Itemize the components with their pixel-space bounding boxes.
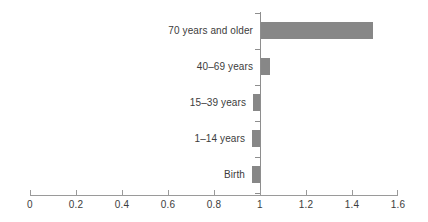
bar-chart: 70 years and older 40–69 years 15–39 yea… (0, 0, 428, 222)
x-axis-tick-label-0-4: 0.4 (115, 199, 130, 210)
x-axis-tick-label-0: 0 (27, 199, 33, 210)
x-axis-tick-label-0-8: 0.8 (207, 199, 222, 210)
y-axis-line (260, 12, 261, 195)
x-axis-line (30, 195, 398, 196)
x-axis-tick (260, 190, 261, 195)
x-axis-tick-label-1: 1 (257, 199, 263, 210)
category-label-70-years-and-older: 70 years and older (160, 25, 253, 36)
x-axis-tick (306, 190, 307, 195)
y-axis-tick (255, 85, 260, 86)
x-axis-tick (168, 190, 169, 195)
bar-70-years-and-older (260, 22, 373, 39)
category-label-birth: Birth (152, 169, 245, 180)
bar-1-14-years (252, 130, 260, 147)
y-axis-tick (255, 13, 260, 14)
category-label-40-69-years: 40–69 years (160, 61, 253, 72)
x-axis-left-cap (30, 190, 31, 195)
x-axis-right-cap (397, 190, 398, 195)
y-axis-tick (255, 157, 260, 158)
bar-15-39-years (253, 94, 260, 111)
x-axis-tick (122, 190, 123, 195)
y-axis-tick (255, 49, 260, 50)
x-axis-tick-label-1-6: 1.6 (391, 199, 406, 210)
x-axis-tick-label-1-2: 1.2 (299, 199, 314, 210)
x-axis-tick (76, 190, 77, 195)
x-axis-tick-label-0-6: 0.6 (161, 199, 176, 210)
x-axis-tick (214, 190, 215, 195)
x-axis-tick (352, 190, 353, 195)
x-axis-tick-label-1-4: 1.4 (345, 199, 360, 210)
bar-40-69-years (260, 58, 270, 75)
bar-birth (252, 166, 260, 183)
category-label-15-39-years: 15–39 years (153, 97, 246, 108)
x-axis-tick-label-0-2: 0.2 (69, 199, 84, 210)
category-label-1-14-years: 1–14 years (152, 133, 245, 144)
y-axis-tick (255, 121, 260, 122)
